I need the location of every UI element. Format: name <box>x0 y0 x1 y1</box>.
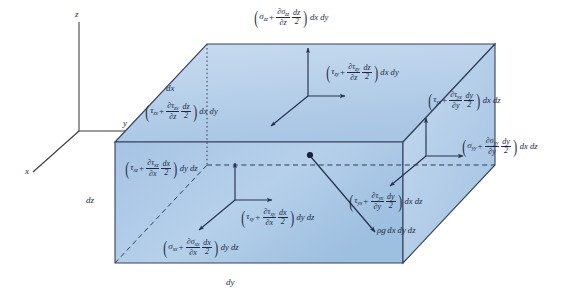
stress-label-sigma-yy-right: ( σyy + ∂σyy ∂y dy 2 ) dx dz <box>461 137 538 156</box>
stress-element-figure: z y x dx dz dy ( σzz + ∂σzz ∂z dz 2 ) dx… <box>0 0 578 297</box>
stress-label-sigma-zz-top: ( σzz + ∂σzz ∂z dz 2 ) dx dy <box>253 8 328 27</box>
axis-label-x: x <box>25 167 29 176</box>
stress-label-tau-yx-right: ( τyx + ∂τyx ∂y dy 2 ) dx dz <box>348 192 422 211</box>
element-center-dot <box>307 152 313 158</box>
x-axis-line <box>33 131 79 172</box>
sym-g: g <box>381 225 386 235</box>
axis-label-y: y <box>123 119 127 128</box>
stress-label-tau-xz-front: ( τxz + ∂τxz ∂x dx 2 ) dy dz <box>124 159 198 178</box>
stress-label-tau-yz-right: ( τyz + ∂τyz ∂y dy 2 ) dx dz <box>427 91 501 110</box>
body-force-label: ρg dx dy dz <box>377 226 416 235</box>
dimension-label-dx: dx <box>166 84 175 93</box>
stress-label-tau-zx-top: ( τzx + ∂τzx ∂z dz 2 ) dx dy <box>144 102 218 121</box>
stress-label-sigma-xx-front: ( σxx + ∂σxx ∂x dx 2 ) dy dz <box>162 238 239 257</box>
stress-label-tau-xy-front: ( τxy + ∂τxy ∂x dx 2 ) dy dz <box>240 208 314 227</box>
axis-label-z: z <box>75 10 79 19</box>
dimension-label-dz: dz <box>86 196 94 205</box>
dimension-label-dy: dy <box>226 278 235 287</box>
stress-label-tau-zy-top: ( τzy + ∂τzy ∂z dz 2 ) dx dy <box>325 63 399 82</box>
